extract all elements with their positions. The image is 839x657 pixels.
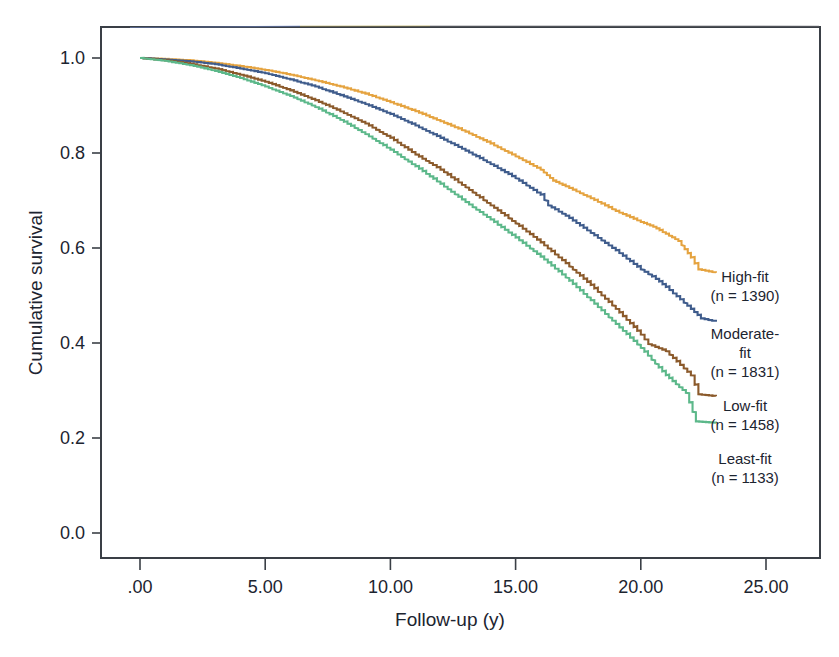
x-tick-label: 10.00: [368, 577, 413, 597]
x-tick-label: .00: [127, 577, 152, 597]
y-tick-label: 0.2: [60, 428, 85, 448]
survival-curves: [140, 58, 716, 423]
legend-high-fit-line1: High-fit: [721, 268, 769, 285]
x-tick-label: 25.00: [743, 577, 788, 597]
legend-moderate-fit-line2: fit: [739, 344, 752, 361]
legend-moderate-fit-line3: (n = 1831): [711, 363, 780, 380]
x-tick-label: 15.00: [493, 577, 538, 597]
curve-least-fit: [140, 58, 716, 423]
survival-chart-figure: 0.00.20.40.60.81.0 .005.0010.0015.0020.0…: [0, 0, 839, 657]
y-tick-label: 1.0: [60, 48, 85, 68]
y-tick-label: 0.4: [60, 333, 85, 353]
legend-low-fit-line1: Low-fit: [723, 397, 768, 414]
x-axis-ticks: [140, 558, 766, 570]
legend-least-fit-line2: (n = 1133): [711, 469, 779, 486]
x-tick-label: 20.00: [618, 577, 663, 597]
x-tick-label: 5.00: [248, 577, 283, 597]
legend-low-fit-line2: (n = 1458): [711, 416, 780, 433]
legend-least-fit-line1: Least-fit: [718, 450, 772, 467]
curve-moderate-fit: [140, 58, 716, 322]
legend-moderate-fit-line1: Moderate-: [711, 325, 779, 342]
legend-group: High-fit (n = 1390) Moderate- fit (n = 1…: [711, 268, 780, 486]
x-axis-tick-labels: .005.0010.0015.0020.0025.00: [127, 577, 788, 597]
x-axis-label: Follow-up (y): [395, 609, 505, 630]
legend-high-fit-line2: (n = 1390): [711, 287, 780, 304]
curve-high-fit: [140, 58, 716, 273]
y-axis-tick-labels: 0.00.20.40.60.81.0: [60, 48, 85, 543]
y-tick-label: 0.8: [60, 143, 85, 163]
y-axis-label: Cumulative survival: [25, 211, 46, 376]
curve-low-fit: [140, 58, 716, 396]
chart-canvas: 0.00.20.40.60.81.0 .005.0010.0015.0020.0…: [0, 0, 839, 657]
y-tick-label: 0.6: [60, 238, 85, 258]
y-axis-ticks: [92, 58, 101, 533]
y-tick-label: 0.0: [60, 523, 85, 543]
